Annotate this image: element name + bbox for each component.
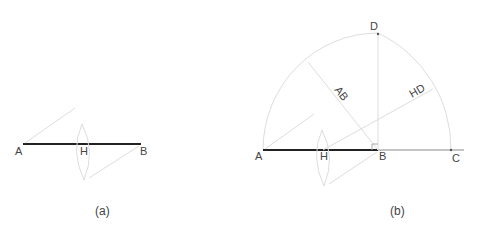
- construction-line: [89, 146, 139, 178]
- point-a-label: A: [15, 145, 23, 157]
- label-ab: AB: [332, 84, 350, 103]
- point-c: [450, 149, 452, 151]
- caption-a: (a): [95, 204, 110, 218]
- point-c-label: C: [452, 152, 460, 164]
- diagram-canvas: A H B (a) A H B C D AB HD (b): [0, 0, 477, 238]
- caption-b: (b): [390, 204, 405, 218]
- point-d-label: D: [370, 20, 378, 32]
- figure-a: A H B (a): [15, 108, 147, 218]
- point-h-label: H: [320, 150, 328, 162]
- point-a-label: A: [255, 150, 263, 162]
- point-d: [377, 33, 379, 35]
- construction-line: [329, 152, 377, 184]
- label-hd: HD: [407, 81, 427, 99]
- construction-line: [265, 114, 314, 149]
- figure-b: A H B C D AB HD (b): [255, 20, 464, 218]
- radius-ab: [308, 62, 378, 150]
- point-b-label: B: [379, 150, 386, 162]
- point-h-label: H: [80, 145, 88, 157]
- point-b-label: B: [140, 145, 147, 157]
- construction-line: [25, 108, 75, 143]
